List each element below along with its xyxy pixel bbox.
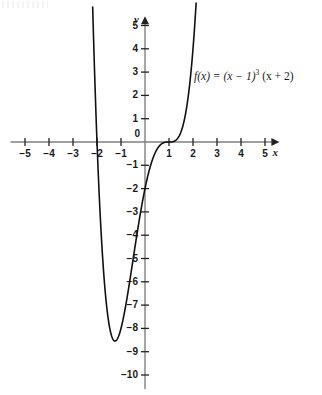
y-tick-label: −8	[127, 323, 138, 333]
function-equation-tail: (x + 2)	[259, 70, 293, 82]
x-tick-label: −1	[115, 149, 126, 159]
y-tick-label: −9	[127, 347, 138, 357]
graph-figure: x y −5−4−3−2−1012345−10−9−8−7−6−5−4−3−2−…	[0, 0, 322, 395]
x-tick-label: 2	[190, 149, 196, 159]
y-tick-label: −6	[127, 277, 138, 287]
x-axis-arrow	[271, 138, 279, 146]
x-tick-label: −5	[19, 149, 30, 159]
x-tick-label: 4	[238, 149, 244, 159]
x-tick-label: 1	[166, 149, 172, 159]
x-tick-label: −3	[67, 149, 78, 159]
y-tick-label: 1	[132, 114, 138, 124]
x-tick-label: −4	[43, 149, 54, 159]
y-tick-label: 3	[132, 67, 138, 77]
y-tick-label: −3	[127, 207, 138, 217]
x-tick-label: 5	[262, 149, 268, 159]
y-tick-label: −10	[121, 370, 138, 380]
y-tick-label: −7	[127, 300, 138, 310]
y-tick-label: −5	[127, 254, 138, 264]
y-tick-label: 5	[132, 21, 138, 31]
coordinate-plane	[0, 0, 322, 395]
x-tick-label: 3	[214, 149, 220, 159]
x-axis-label: x	[272, 147, 278, 158]
y-axis-arrow	[141, 16, 149, 24]
y-tick-label: −1	[127, 160, 138, 170]
y-tick-label: −2	[127, 184, 138, 194]
function-equation-annotation: f(x) = (x − 1)3 (x + 2)	[194, 70, 294, 83]
x-tick-label: −2	[91, 149, 102, 159]
origin-label: 0	[134, 129, 140, 139]
y-tick-label: 2	[132, 90, 138, 100]
function-equation-head: f(x) = (x − 1)	[194, 70, 256, 82]
y-tick-label: 4	[132, 44, 138, 54]
y-tick-label: −4	[127, 230, 138, 240]
